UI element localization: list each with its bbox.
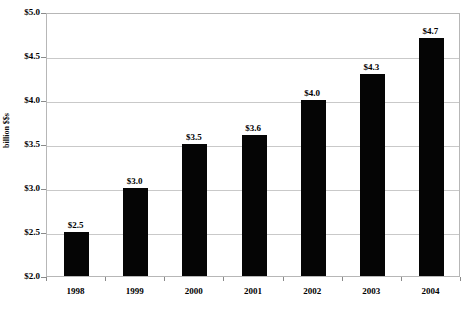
x-axis-tick-label: 2001 <box>223 286 283 296</box>
bar <box>182 144 207 276</box>
bar-value-label: $4.7 <box>405 26 455 36</box>
bar-value-label: $3.5 <box>169 132 219 142</box>
bar-value-label: $2.5 <box>51 220 101 230</box>
x-axis-tick-mark <box>401 277 402 281</box>
y-axis-tick-label: $4.5 <box>4 51 40 61</box>
x-axis-tick-label: 1998 <box>46 286 106 296</box>
bar <box>419 38 444 276</box>
y-axis-tick-label: $3.5 <box>4 139 40 149</box>
x-axis-tick-label: 1999 <box>105 286 165 296</box>
bar <box>301 100 326 276</box>
bar <box>360 74 385 276</box>
x-axis-tick-mark <box>46 277 47 281</box>
x-axis-tick-mark <box>283 277 284 281</box>
x-axis-tick-mark <box>460 277 461 281</box>
bar-chart: billion $$s $2.0$2.5$3.0$3.5$4.0$4.5$5.0… <box>0 0 471 309</box>
x-axis-tick-mark <box>105 277 106 281</box>
bar-value-label: $3.0 <box>110 176 160 186</box>
x-axis-tick-label: 2002 <box>282 286 342 296</box>
x-axis-tick-label: 2004 <box>400 286 460 296</box>
chart-title <box>0 0 471 4</box>
gridline <box>47 102 459 103</box>
gridline <box>47 58 459 59</box>
x-axis-tick-label: 2000 <box>164 286 224 296</box>
bar-value-label: $4.0 <box>287 88 337 98</box>
y-axis-title: billion $$s <box>2 101 11 161</box>
y-axis-tick-label: $2.5 <box>4 227 40 237</box>
y-axis-tick-label: $2.0 <box>4 271 40 281</box>
bar-value-label: $3.6 <box>228 123 278 133</box>
x-axis-tick-label: 2003 <box>341 286 401 296</box>
y-axis-tick-label: $4.0 <box>4 95 40 105</box>
bar-value-label: $4.3 <box>346 62 396 72</box>
plot-area <box>46 13 460 277</box>
x-axis-tick-mark <box>223 277 224 281</box>
bar <box>64 232 89 276</box>
x-axis-tick-mark <box>342 277 343 281</box>
bar <box>242 135 267 276</box>
bar <box>123 188 148 276</box>
x-axis-tick-mark <box>164 277 165 281</box>
y-axis-tick-label: $5.0 <box>4 7 40 17</box>
y-axis-tick-label: $3.0 <box>4 183 40 193</box>
